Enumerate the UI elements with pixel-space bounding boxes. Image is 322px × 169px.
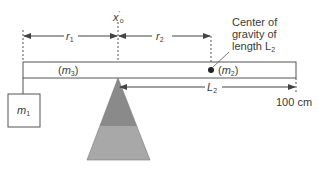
L2-label: L2: [207, 81, 217, 97]
cg-annotation: Center of gravity of length L2: [232, 16, 277, 56]
r1-label: r1: [66, 30, 74, 46]
fulcrum: [87, 78, 150, 160]
x0-label: x'o: [113, 8, 124, 27]
m1-label: m1: [17, 104, 30, 120]
m2-label: (m2): [218, 64, 238, 80]
center-of-gravity-dot: [208, 67, 214, 73]
end-mark-label: 100 cm: [276, 96, 312, 108]
m3-label: (m3): [58, 64, 78, 80]
r2-label: r2: [156, 30, 164, 46]
